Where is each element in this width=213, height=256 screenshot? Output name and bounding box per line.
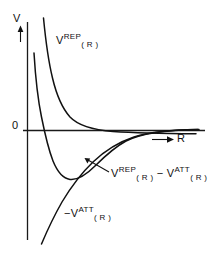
y-axis-label: V bbox=[13, 13, 21, 24]
vcomb-operator: − bbox=[153, 167, 166, 179]
vcomb-base-one: V bbox=[111, 167, 119, 179]
vcomb-argument-two: ( R ) bbox=[190, 173, 207, 182]
potential-energy-diagram: V 0 R VREP( R ) VREP( R ) − VATT( R ) −V… bbox=[0, 0, 213, 256]
x-axis-label: R bbox=[177, 133, 185, 144]
vcomb-superscript-one: REP bbox=[119, 165, 137, 174]
curve-combined-potential bbox=[34, 53, 199, 179]
vatt-argument: ( R ) bbox=[94, 213, 111, 222]
curve-label-repulsive: VREP( R ) bbox=[56, 33, 98, 49]
curve-attractive-potential bbox=[42, 130, 199, 244]
vatt-operator: − bbox=[64, 207, 71, 219]
vcomb-argument-one: ( R ) bbox=[136, 173, 153, 182]
vcomb-superscript-two: ATT bbox=[174, 165, 190, 174]
up-arrow-icon bbox=[18, 26, 24, 33]
vrep-base: V bbox=[56, 34, 64, 46]
curve-label-combined: VREP( R ) − VATT( R ) bbox=[111, 166, 207, 182]
right-arrow-icon bbox=[167, 136, 174, 143]
vatt-superscript: ATT bbox=[78, 205, 94, 214]
vrep-argument: ( R ) bbox=[81, 40, 98, 49]
curve-label-attractive: −VATT( R ) bbox=[64, 206, 111, 222]
origin-zero-label: 0 bbox=[12, 120, 18, 131]
vrep-superscript: REP bbox=[64, 32, 82, 41]
